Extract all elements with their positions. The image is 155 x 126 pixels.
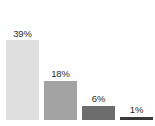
bar-rect: [82, 106, 115, 120]
bar-value-label: 6%: [82, 93, 115, 104]
bar-group-3: 6%: [82, 91, 115, 120]
bar-chart: 39% 18% 6% 1%: [0, 0, 155, 126]
bar-value-label: 1%: [120, 104, 153, 115]
bar-rect: [44, 81, 77, 120]
bar-value-label: 39%: [6, 28, 39, 39]
bar-rect: [6, 40, 39, 120]
bar-group-4: 1%: [120, 102, 153, 120]
bar-rect: [120, 117, 153, 120]
bar-value-label: 18%: [44, 68, 77, 79]
bar-group-2: 18%: [44, 67, 77, 120]
bar-group-1: 39%: [6, 28, 39, 120]
